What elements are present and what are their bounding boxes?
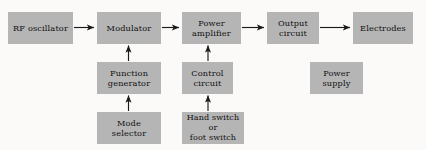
block-label: selector	[112, 128, 146, 139]
block-function-generator: Function generator	[97, 62, 161, 94]
block-label: Power	[198, 18, 225, 29]
block-label: circuit	[279, 28, 307, 39]
block-label: Electrodes	[360, 23, 406, 34]
block-electrodes: Electrodes	[353, 12, 413, 44]
block-label: Power	[323, 68, 350, 79]
block-power-supply: Power supply	[310, 62, 363, 94]
block-label: circuit	[194, 78, 222, 89]
block-label: Hand switch	[187, 113, 240, 123]
block-diagram: RF oscillator Modulator Power amplifier …	[0, 0, 426, 150]
block-label: Mode	[117, 118, 141, 129]
block-power-amplifier: Power amplifier	[182, 12, 241, 44]
block-label: supply	[322, 78, 350, 89]
block-label: or	[209, 123, 218, 133]
block-output-circuit: Output circuit	[267, 12, 319, 44]
block-label: Control	[191, 68, 223, 79]
block-label: Output	[278, 18, 308, 29]
block-label: amplifier	[192, 28, 231, 39]
block-label: foot switch	[190, 133, 236, 143]
block-label: Modulator	[107, 23, 152, 34]
block-label: RF oscillator	[13, 23, 68, 34]
block-hand-or-foot-switch: Hand switch or foot switch	[182, 112, 244, 144]
block-control-circuit: Control circuit	[182, 62, 233, 94]
block-label: Function	[110, 68, 148, 79]
block-modulator: Modulator	[97, 12, 161, 44]
block-rf-oscillator: RF oscillator	[8, 12, 73, 44]
block-mode-selector: Mode selector	[97, 112, 161, 144]
block-label: generator	[108, 78, 150, 89]
